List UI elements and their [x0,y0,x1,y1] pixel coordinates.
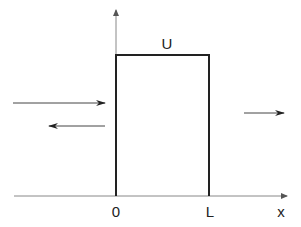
barrier-outline [116,55,209,196]
barrier-width-label: L [206,203,214,220]
barrier-height-label: U [162,35,173,52]
potential-barrier-diagram: U 0 L x [0,0,301,227]
x-axis-label: x [277,203,285,220]
origin-label: 0 [112,203,120,220]
